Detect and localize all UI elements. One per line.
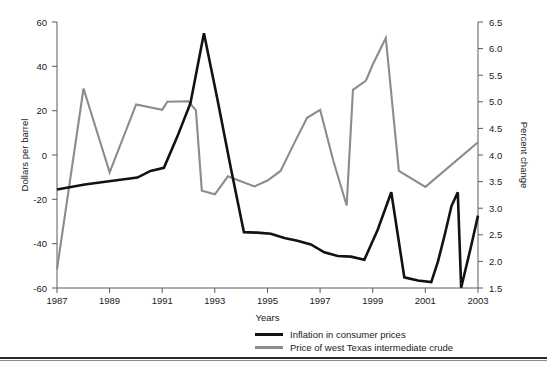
plot-frame	[57, 22, 478, 288]
right-tick-label: 2.5	[489, 229, 502, 240]
left-tick-label: -20	[33, 194, 47, 205]
right-tick-label: 6.0	[489, 43, 502, 54]
right-tick-label: 5.0	[489, 96, 502, 107]
left-tick-label: -60	[33, 283, 47, 294]
series-line-inflation	[57, 33, 478, 288]
legend-label-wti-crude: Price of west Texas intermediate crude	[290, 342, 453, 353]
chart-legend: Inflation in consumer prices Price of we…	[255, 329, 453, 353]
left-tick-label: 0	[42, 150, 47, 161]
x-tick-label: 1997	[310, 295, 331, 306]
left-tick-label: 40	[36, 61, 47, 72]
y2-axis-title: Percent change	[519, 122, 530, 189]
bottom-axis-ticks	[57, 288, 478, 293]
left-tick-label: 60	[36, 17, 47, 28]
x-tick-label: 1991	[152, 295, 173, 306]
left-tick-labels: 60 40 20 0 -20 -40 -60	[33, 17, 47, 294]
left-axis-ticks	[52, 22, 57, 288]
x-tick-label: 1993	[204, 295, 225, 306]
right-tick-label: 6.5	[489, 17, 502, 28]
x-tick-label: 2003	[467, 295, 488, 306]
line-chart: 60 40 20 0 -20 -40 -60 6.5 6.0 5.5 5.0 4…	[0, 0, 547, 356]
right-tick-label: 1.5	[489, 283, 502, 294]
left-tick-label: 20	[36, 105, 47, 116]
x-axis-title: Years	[256, 312, 280, 323]
right-tick-labels: 6.5 6.0 5.5 5.0 4.5 4.0 3.5 3.0 2.5 2.0 …	[489, 17, 502, 294]
right-tick-label: 3.0	[489, 203, 502, 214]
right-tick-label: 2.0	[489, 256, 502, 267]
x-tick-label: 1989	[99, 295, 120, 306]
right-tick-label: 4.5	[489, 123, 502, 134]
footer-divider	[0, 357, 547, 359]
cropped-caption-sliver	[0, 0, 547, 6]
x-tick-label: 2001	[415, 295, 436, 306]
right-tick-label: 3.5	[489, 176, 502, 187]
x-tick-label: 1999	[362, 295, 383, 306]
footer-divider-secondary	[0, 360, 547, 361]
right-axis-ticks	[478, 22, 483, 288]
chart-figure: 60 40 20 0 -20 -40 -60 6.5 6.0 5.5 5.0 4…	[0, 0, 547, 370]
left-tick-label: -40	[33, 238, 47, 249]
y-axis-title: Dollars per barrel	[19, 119, 30, 192]
x-tick-label: 1987	[46, 295, 67, 306]
right-tick-label: 4.0	[489, 150, 502, 161]
x-tick-label: 1995	[257, 295, 278, 306]
legend-label-inflation: Inflation in consumer prices	[290, 329, 406, 340]
right-tick-label: 5.5	[489, 70, 502, 81]
bottom-tick-labels: 1987 1989 1991 1993 1995 1997 1999 2001 …	[46, 295, 488, 306]
